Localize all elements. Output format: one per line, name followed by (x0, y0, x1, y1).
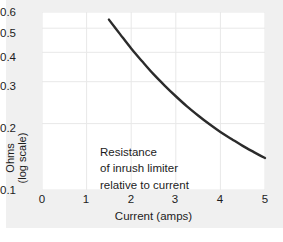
x-tick-label: 0 (30, 194, 54, 206)
y-tick-label: 0.4 (0, 52, 16, 64)
y-tick-label: 0.6 (0, 7, 16, 19)
annotation-line-1: Resistance (100, 144, 189, 160)
x-tick-label: 4 (208, 194, 232, 206)
y-tick-label: 0.1 (0, 185, 16, 197)
y-tick-label: 0.3 (0, 81, 16, 93)
plot-area: Resistance of inrush limiter relative to… (42, 12, 265, 190)
y-tick-label: 0.2 (0, 123, 16, 135)
annotation-line-3: relative to current (100, 177, 189, 193)
annotation-line-2: of inrush limiter (100, 160, 189, 176)
x-tick-label: 3 (163, 194, 187, 206)
chart-figure: 0.6 0.5 0.4 0.3 0.2 0.1 0 1 2 3 4 5 Curr… (0, 0, 283, 242)
chart-annotation: Resistance of inrush limiter relative to… (100, 144, 189, 193)
series-path-resistance (109, 20, 265, 158)
x-tick-label: 2 (119, 194, 143, 206)
x-axis-title: Current (amps) (42, 210, 265, 222)
x-tick-label: 1 (74, 194, 98, 206)
y-tick-label: 0.5 (0, 28, 16, 40)
x-tick-label: 5 (253, 194, 277, 206)
